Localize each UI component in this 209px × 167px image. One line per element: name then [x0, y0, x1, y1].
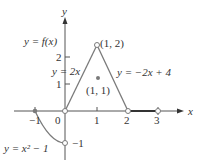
open-point-peak: [95, 43, 100, 48]
function-label: y = f(x): [23, 35, 57, 48]
open-point-2: [126, 109, 131, 114]
x-tick-label-3: 3: [154, 114, 160, 126]
x-tick-label-1: 1: [94, 114, 100, 126]
parabola-label: y = x² − 1: [3, 142, 48, 154]
isolated-point-label: (1, 1): [86, 84, 110, 97]
line-up-piece: [65, 45, 97, 111]
line-up-label: y = 2x: [51, 65, 80, 77]
x-axis-arrow-icon: [177, 109, 184, 114]
piecewise-function-graph: y x y = f(x) 2 1 −1 −1 0 1 2 3 y = 2x y …: [0, 0, 209, 167]
closed-point-neg1: [33, 109, 38, 114]
line-down-piece: [97, 45, 128, 111]
open-point-origin: [63, 109, 68, 114]
peak-point-label: (1, 2): [100, 37, 124, 50]
x-tick-label-2: 2: [124, 114, 130, 126]
y-tick-label-1: 1: [56, 78, 62, 90]
x-tick-label-neg1: −1: [29, 114, 41, 126]
y-axis-arrow-icon: [63, 17, 68, 24]
closed-point-isolated: [96, 76, 100, 80]
open-point-3: [156, 109, 161, 114]
x-tick-label-0: 0: [55, 114, 61, 126]
y-axis-label: y: [61, 5, 67, 17]
y-tick-label-2: 2: [56, 51, 62, 63]
y-tick-label-neg1: −1: [72, 137, 84, 149]
open-point-neg1-y: [63, 141, 68, 146]
x-axis-label: x: [187, 105, 193, 117]
line-down-label: y = −2x + 4: [116, 66, 172, 78]
